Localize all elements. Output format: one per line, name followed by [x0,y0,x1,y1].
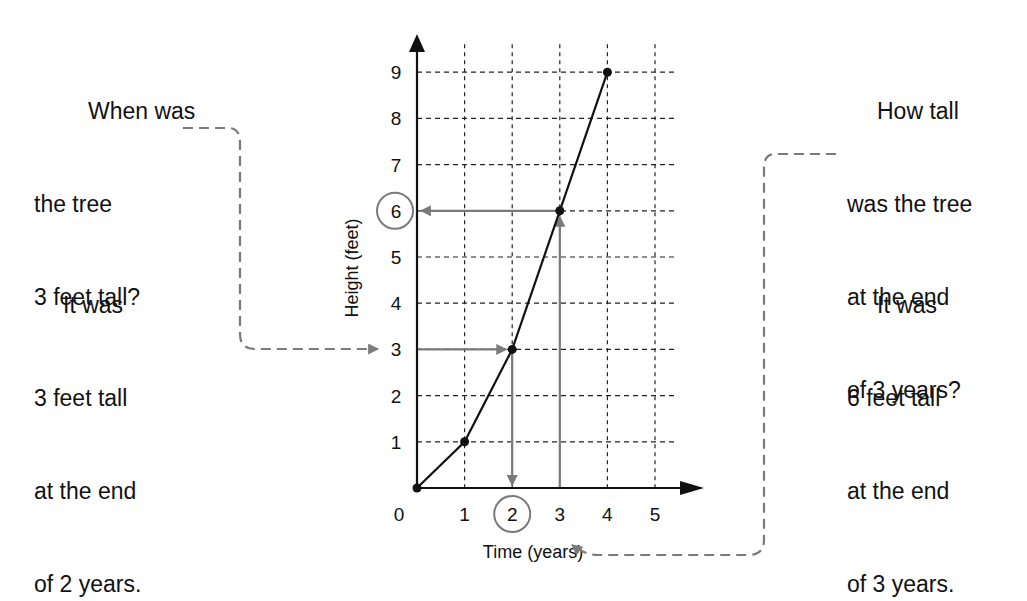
y-tick-label: 4 [391,293,402,314]
right-callout-connector [572,154,836,555]
x-axis-arrowhead-icon [680,481,704,495]
y-tick-label: 1 [391,432,402,453]
x-tick-label: 2 [507,504,518,525]
x-tick-label: 4 [602,504,613,525]
y-tick-label: 7 [391,155,402,176]
x-tick-label: 3 [555,504,566,525]
y-tick-label: 3 [391,339,402,360]
data-point [603,68,612,77]
y-tick-label: 6 [391,201,402,222]
y-axis-arrowhead-icon [409,34,425,52]
y-tick-label: 5 [391,247,402,268]
y-tick-label: 8 [391,108,402,129]
x-axis-title: Time (years) [483,542,583,562]
callout-connectors [183,128,836,555]
y-tick-label: 2 [391,386,402,407]
y-tick-label: 9 [391,62,402,83]
data-point [508,345,517,354]
axes [409,34,704,495]
data-point [413,484,422,493]
x-tick-label: 0 [394,504,405,525]
data-point [460,437,469,446]
x-tick-label: 1 [459,504,470,525]
grid-lines [417,44,677,488]
data-point [555,206,564,215]
y-axis-title: Height (feet) [342,218,362,317]
x-tick-label: 5 [650,504,661,525]
